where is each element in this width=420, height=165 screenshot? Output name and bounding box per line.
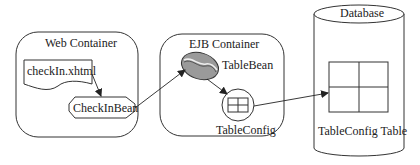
diagram-canvas bbox=[0, 0, 420, 165]
tableconfig-label: TableConfig bbox=[216, 123, 276, 138]
edge-tablebean-to-tableconfig bbox=[207, 79, 227, 94]
page-label: checkIn.xhtml bbox=[27, 64, 96, 79]
web-container-title: Web Container bbox=[45, 36, 117, 51]
db-table-label: TableConfig Table bbox=[318, 124, 407, 139]
bean-icon bbox=[178, 48, 222, 84]
tablebean-label: TableBean bbox=[222, 58, 273, 73]
checkinbean-label: CheckInBean bbox=[73, 101, 138, 116]
database-title: Database bbox=[340, 6, 384, 21]
ejb-container-title: EJB Container bbox=[189, 37, 259, 52]
